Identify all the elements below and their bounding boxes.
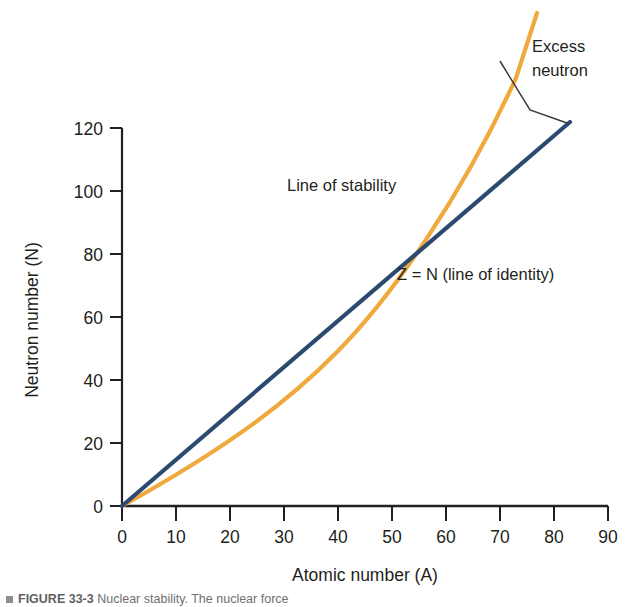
caption-text: Nuclear stability. The nuclear force (97, 592, 288, 606)
y-axis-tick-labels: 120 100 80 60 40 20 0 (74, 119, 103, 517)
y-tick-label-60: 60 (84, 308, 104, 328)
z-equals-n-label: Z = N (line of identity) (397, 265, 554, 283)
excess-neutron-label-line1: Excess (532, 37, 585, 55)
excess-neutron-label-line2: neutron (532, 61, 588, 79)
figure-caption: FIGURE 33-3 Nuclear stability. The nucle… (6, 592, 631, 607)
x-tick-label-70: 70 (490, 527, 510, 547)
x-tick-label-20: 20 (220, 527, 240, 547)
y-tick-label-80: 80 (84, 245, 104, 265)
y-tick-label-40: 40 (84, 371, 104, 391)
caption-marker-icon (6, 596, 13, 603)
y-tick-label-100: 100 (74, 182, 103, 202)
series-line-of-stability (122, 13, 537, 506)
y-tick-label-120: 120 (74, 119, 103, 139)
x-tick-label-90: 90 (598, 527, 618, 547)
x-axis-ticks (122, 506, 608, 521)
caption-figure-number: FIGURE 33-3 (18, 592, 94, 606)
stability-chart-svg: 120 100 80 60 40 20 0 0 10 20 30 (0, 0, 637, 607)
y-tick-label-0: 0 (93, 497, 103, 517)
x-tick-label-50: 50 (382, 527, 402, 547)
x-axis-title: Atomic number (A) (292, 565, 438, 585)
x-tick-label-80: 80 (544, 527, 564, 547)
x-tick-label-60: 60 (436, 527, 456, 547)
x-tick-label-0: 0 (117, 527, 127, 547)
y-axis-title: Neutron number (N) (22, 242, 42, 398)
figure-nuclear-stability: 120 100 80 60 40 20 0 0 10 20 30 (0, 0, 637, 607)
x-tick-label-40: 40 (328, 527, 348, 547)
x-tick-label-10: 10 (166, 527, 186, 547)
x-axis-tick-labels: 0 10 20 30 40 50 60 70 80 90 (117, 527, 618, 547)
line-of-stability-label: Line of stability (287, 176, 397, 194)
x-tick-label-30: 30 (274, 527, 294, 547)
y-tick-label-20: 20 (84, 434, 104, 454)
y-axis-ticks (110, 128, 122, 506)
